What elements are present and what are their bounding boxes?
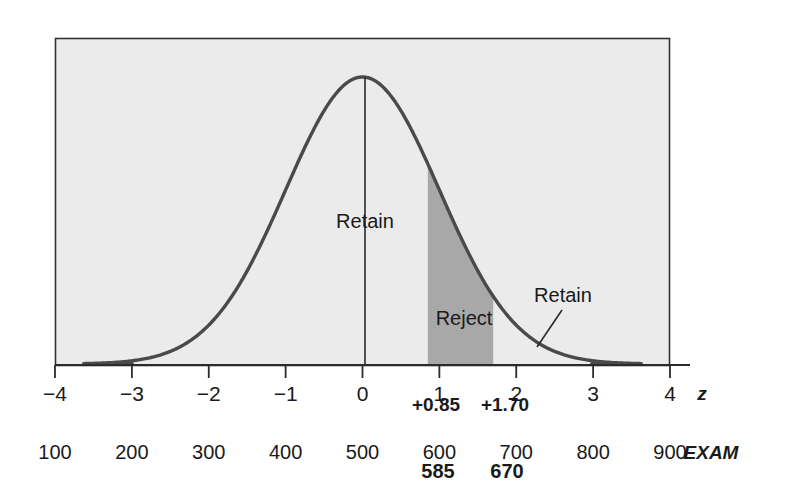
z-tick-label-3: −1	[274, 382, 298, 405]
exam-tick-label-1: 200	[115, 441, 148, 463]
z-tick-label-2: −2	[197, 382, 221, 405]
exam-tick-label-0: 100	[38, 441, 71, 463]
exam-tick-label-2: 300	[192, 441, 225, 463]
z-marker-170: +1.70	[481, 394, 529, 415]
z-tick-label-8: 4	[664, 382, 676, 405]
exam-tick-labels: 100200300400500600700800900	[38, 441, 686, 463]
plot-panel	[56, 39, 670, 366]
z-axis-name: z	[696, 383, 707, 404]
z-tick-labels: −4−3−2−101234	[43, 382, 676, 405]
z-tick-label-7: 3	[587, 382, 599, 405]
retain-tail-label: Retain	[534, 284, 592, 306]
exam-marker-585: 585	[421, 460, 454, 482]
exam-tick-label-8: 900	[653, 441, 686, 463]
retain-center-label: Retain	[336, 210, 394, 232]
exam-marker-670: 670	[490, 460, 523, 482]
z-tick-label-0: −4	[43, 382, 67, 405]
z-marker-085: +0.85	[412, 394, 461, 415]
z-tick-label-1: −3	[120, 382, 144, 405]
exam-tick-label-3: 400	[269, 441, 302, 463]
z-axis-ticks	[55, 365, 670, 378]
z-tick-label-4: 0	[357, 382, 369, 405]
exam-tick-label-7: 800	[576, 441, 609, 463]
exam-axis-name: EXAM	[684, 442, 740, 463]
exam-tick-label-4: 500	[346, 441, 379, 463]
normal-distribution-chart: −4−3−2−101234 10020030040050060070080090…	[0, 0, 786, 502]
reject-label: Reject	[436, 307, 493, 329]
